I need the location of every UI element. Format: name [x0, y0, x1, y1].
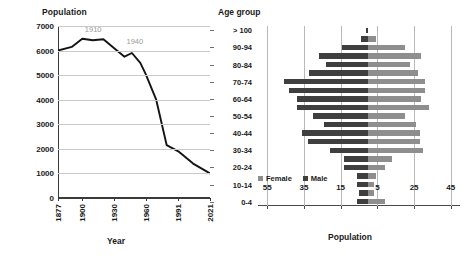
line-chart-y-tick-label: 1000 [18, 169, 54, 178]
pyramid-chart-x-axis-title: Population [240, 232, 460, 242]
line-chart-x-tick-label: 1991 [174, 204, 183, 222]
pyramid-age-group-label: 20-24 [233, 163, 252, 172]
line-chart-gridline [58, 198, 210, 199]
pyramid-bar-female [368, 148, 423, 153]
line-chart-x-tick-label: 1877 [54, 204, 63, 222]
pyramid-bar-female [368, 122, 416, 127]
pyramid-age-tickmark [210, 116, 214, 117]
legend-entry-female: Female [258, 174, 292, 183]
pyramid-bar-male [324, 122, 368, 127]
pyramid-age-tickmark [210, 185, 214, 186]
pyramid-age-row [258, 53, 460, 58]
pyramid-age-group-label: 40-44 [233, 129, 252, 138]
pyramid-age-row [258, 70, 460, 75]
pyramid-age-row [258, 88, 460, 93]
pyramid-bar-male [297, 96, 369, 101]
pyramid-bar-female [368, 45, 405, 50]
pyramid-age-tickmark [210, 150, 214, 151]
pyramid-age-row [258, 62, 460, 67]
pyramid-bar-female [368, 96, 421, 101]
pyramid-bar-female [368, 70, 418, 75]
line-chart-gridline [58, 173, 210, 174]
pyramid-age-group-label: 10-14 [233, 180, 252, 189]
line-chart-gridline [58, 51, 210, 52]
line-chart-gridline [58, 149, 210, 150]
pyramid-bar-male [366, 28, 368, 33]
pyramid-bar-male [297, 105, 369, 110]
pyramid-chart-x-axis [258, 205, 460, 206]
legend-label-female: Female [266, 174, 292, 183]
line-chart-x-tick-label: 1960 [142, 204, 151, 222]
pyramid-age-row [258, 79, 460, 84]
pyramid-chart-x-tickmark [451, 206, 452, 209]
pyramid-bar-male [330, 148, 369, 153]
pyramid-age-tickmark [210, 202, 214, 203]
pyramid-age-row [258, 148, 460, 153]
pyramid-bar-female [368, 156, 392, 161]
pyramid-bar-male [308, 139, 369, 144]
pyramid-age-group-label: 80-84 [233, 60, 252, 69]
legend-label-male: Male [311, 174, 328, 183]
pyramid-age-tickmark [210, 99, 214, 100]
line-chart-x-tickmark [82, 198, 83, 201]
pyramid-chart-y-axis-title: Age group [218, 7, 261, 17]
pyramid-bar-female [368, 53, 421, 58]
pyramid-age-group-label: 0-4 [241, 197, 252, 206]
line-chart-x-tick-label: 1900 [78, 204, 87, 222]
pyramid-chart-x-tickmark [414, 206, 415, 209]
pyramid-bar-male [344, 156, 368, 161]
pyramid-age-group-label: 30-34 [233, 146, 252, 155]
line-chart-annotation-1940: 1940 [127, 37, 144, 46]
pyramid-age-row [258, 190, 460, 195]
line-chart-x-axis-title: Year [0, 236, 232, 246]
line-chart-gridline [58, 75, 210, 76]
line-chart-y-tick-label: 5000 [18, 71, 54, 80]
pyramid-chart-x-tick-label: 35 [292, 183, 316, 192]
pyramid-bar-female [368, 79, 425, 84]
legend-entry-male: Male [303, 174, 328, 183]
pyramid-chart-legend: Female Male [258, 174, 328, 183]
line-chart-y-tick-label: 6000 [18, 46, 54, 55]
pyramid-age-row [258, 36, 460, 41]
pyramid-bar-male [357, 199, 368, 204]
pyramid-age-group-label: > 100 [233, 26, 252, 35]
line-chart-x-tickmark [146, 198, 147, 201]
pyramid-age-group-label: 90-94 [233, 43, 252, 52]
pyramid-age-row [258, 105, 460, 110]
pyramid-bar-male [344, 165, 368, 170]
line-chart-x-tickmark [114, 198, 115, 201]
pyramid-bar-male [289, 88, 368, 93]
line-chart-gridline [58, 124, 210, 125]
pyramid-bar-female [368, 199, 385, 204]
pyramid-bar-male [326, 62, 368, 67]
pyramid-age-row [258, 45, 460, 50]
line-chart-panel: Population 01000200030004000500060007000… [0, 0, 232, 259]
line-chart-gridline [58, 26, 210, 27]
line-chart-y-tick-label: 3000 [18, 120, 54, 129]
pyramid-age-row [258, 122, 460, 127]
pyramid-bar-female [368, 88, 425, 93]
pyramid-bar-male [313, 113, 368, 118]
pyramid-bar-female [368, 173, 375, 178]
pyramid-age-row [258, 130, 460, 135]
line-chart-series-path [58, 26, 210, 198]
pyramid-bar-male [284, 79, 368, 84]
pyramid-age-tickmark [210, 65, 214, 66]
pyramid-age-row [258, 156, 460, 161]
pyramid-chart-panel: Age group > 10090-9480-8470-7460-6450-54… [210, 0, 464, 259]
legend-swatch-female-icon [258, 176, 263, 181]
pyramid-age-tickmark [210, 133, 214, 134]
pyramid-age-row [258, 199, 460, 204]
line-chart-y-tick-label: 0 [18, 194, 54, 203]
line-chart-x-tickmark [178, 198, 179, 201]
pyramid-bar-male [361, 36, 368, 41]
line-chart-annotation-1910: 1910 [85, 25, 102, 34]
pyramid-bar-male [319, 53, 369, 58]
pyramid-bar-female [368, 165, 385, 170]
pyramid-age-group-label: 50-54 [233, 112, 252, 121]
pyramid-bar-female [368, 139, 419, 144]
pyramid-chart-x-tickmark [267, 206, 268, 209]
pyramid-age-row [258, 165, 460, 170]
pyramid-chart-x-tickmark [341, 206, 342, 209]
pyramid-bar-male [357, 173, 368, 178]
